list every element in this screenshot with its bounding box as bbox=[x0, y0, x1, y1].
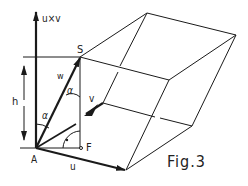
edge bbox=[160, 118, 192, 126]
u-vector bbox=[36, 148, 125, 170]
h-label: h bbox=[12, 96, 18, 107]
edge bbox=[120, 13, 147, 66]
parallelepiped-diagram bbox=[0, 0, 248, 186]
edge bbox=[103, 103, 155, 117]
point-F-label: F bbox=[86, 142, 92, 153]
edge bbox=[80, 57, 169, 80]
alpha-label-lower: α bbox=[42, 111, 48, 121]
point-S-label: S bbox=[77, 44, 83, 55]
edge bbox=[126, 80, 169, 170]
right-angle-arc bbox=[63, 131, 80, 148]
edge bbox=[103, 72, 118, 103]
edge bbox=[80, 13, 147, 57]
u-label: u bbox=[70, 162, 76, 172]
v-arrowhead bbox=[84, 104, 98, 116]
alpha-label-upper: α bbox=[67, 86, 73, 96]
point-A-label: A bbox=[31, 155, 37, 165]
cross-product-label: u×v bbox=[42, 14, 61, 24]
v-label: v bbox=[89, 94, 94, 104]
right-angle-dot bbox=[66, 139, 68, 141]
point-F bbox=[80, 147, 83, 150]
edge bbox=[192, 35, 236, 126]
figure-caption: Fig.3 bbox=[167, 154, 206, 170]
w-label: w bbox=[57, 72, 64, 81]
edge bbox=[169, 35, 236, 80]
edge bbox=[147, 13, 236, 35]
